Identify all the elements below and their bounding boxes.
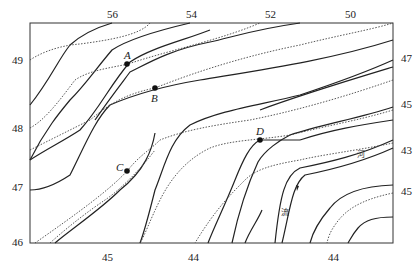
point-b-label: B: [151, 93, 158, 104]
isolines: [30, 23, 393, 243]
top-label: 52: [265, 9, 276, 20]
bottom-label: 44: [328, 252, 339, 263]
flow-arrow-icon: [296, 185, 299, 191]
contour-map: [0, 0, 419, 269]
point-d-label: D: [256, 126, 264, 137]
point-c: [124, 168, 130, 174]
right-label: 43: [401, 145, 412, 156]
left-label: 46: [12, 237, 23, 248]
contour-lines: [30, 23, 393, 243]
point-a-label: A: [124, 50, 131, 61]
river-label-upper: 河: [357, 151, 365, 159]
river-label-lower: 流: [281, 209, 289, 217]
point-b: [152, 85, 158, 91]
point-a: [124, 61, 130, 67]
left-label: 49: [12, 55, 23, 66]
right-label: 45: [401, 99, 412, 110]
map-frame: [30, 23, 393, 243]
bottom-label: 44: [188, 252, 199, 263]
top-label: 50: [345, 9, 356, 20]
left-label: 47: [12, 182, 23, 193]
left-label: 48: [12, 123, 23, 134]
top-label: 54: [186, 9, 197, 20]
top-label: 56: [107, 9, 118, 20]
right-label: 45: [401, 186, 412, 197]
point-d: [257, 137, 263, 143]
right-label: 47: [401, 53, 412, 64]
point-c-label: C: [116, 162, 123, 173]
bottom-label: 45: [102, 252, 113, 263]
